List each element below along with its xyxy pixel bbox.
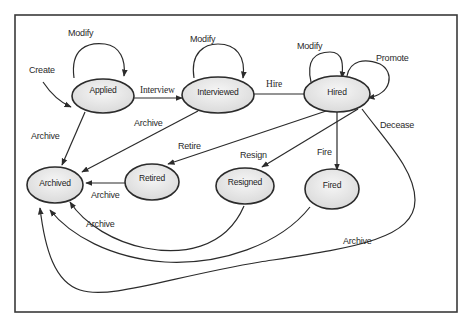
label-modify-interviewed: Modify	[190, 34, 216, 44]
state-label: Fired	[323, 180, 342, 190]
edge-resign	[262, 109, 358, 167]
state-resigned[interactable]: Resigned	[216, 168, 274, 204]
state-label: Applied	[90, 85, 117, 95]
state-archived[interactable]: Archived	[27, 167, 83, 203]
state-label: Resigned	[228, 177, 263, 187]
state-diagram: Applied Interviewed Hired Archived Retir…	[0, 0, 470, 326]
state-label: Hired	[327, 87, 347, 97]
label-archive-far: Archive	[343, 236, 372, 246]
label-resign: Resign	[240, 150, 267, 160]
state-label: Interviewed	[197, 87, 239, 97]
label-archive-interviewed: Archive	[134, 118, 163, 128]
state-label: Archived	[39, 178, 71, 188]
label-promote: Promote	[376, 53, 409, 63]
label-archive-retired: Archive	[91, 190, 120, 200]
label-interview: Interview	[140, 85, 175, 95]
label-archive-applied: Archive	[31, 131, 60, 141]
state-label: Retired	[139, 173, 165, 183]
label-retire: Retire	[178, 141, 201, 151]
edge-modify-applied	[73, 44, 124, 78]
edge-archive-applied	[62, 112, 85, 165]
label-archive-resigned: Archive	[86, 219, 115, 229]
state-applied[interactable]: Applied	[72, 79, 134, 113]
state-hired[interactable]: Hired	[304, 76, 370, 112]
state-fired[interactable]: Fired	[305, 169, 359, 209]
label-decease: Decease	[380, 120, 414, 130]
state-retired[interactable]: Retired	[125, 164, 179, 200]
label-modify-applied: Modify	[68, 28, 94, 38]
label-modify-hired: Modify	[297, 41, 323, 51]
label-create: Create	[29, 65, 55, 75]
label-fire: Fire	[317, 147, 332, 157]
state-interviewed[interactable]: Interviewed	[182, 77, 254, 113]
edge-modify-interviewed	[193, 44, 243, 78]
edge-archive-fired	[50, 207, 310, 262]
edge-create	[43, 82, 71, 107]
label-hire: Hire	[266, 79, 282, 89]
